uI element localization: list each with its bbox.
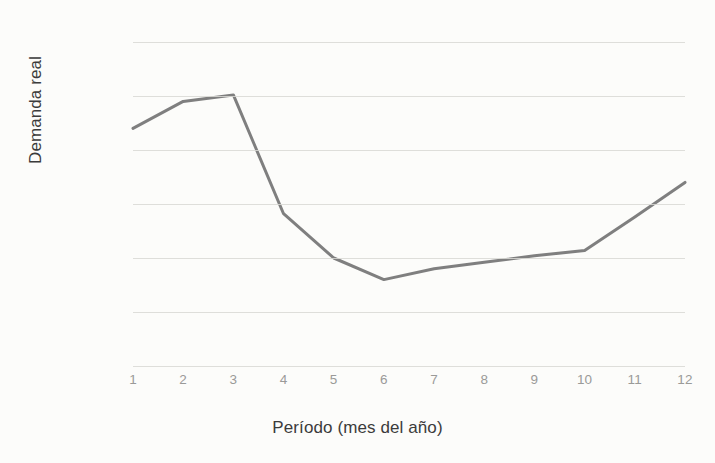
gridline (133, 150, 685, 151)
x-tick-label: 1 (113, 372, 153, 387)
x-tick-label: 6 (364, 372, 404, 387)
y-axis-title: Demanda real (26, 10, 46, 210)
x-tick-label: 12 (665, 372, 705, 387)
x-tick-label: 3 (213, 372, 253, 387)
gridline (133, 96, 685, 97)
gridline (133, 204, 685, 205)
plot-area: 050100150200250300123456789101112 (133, 42, 685, 366)
line-chart-figure: Demanda real 050100150200250300123456789… (0, 0, 715, 463)
gridline (133, 42, 685, 43)
x-axis-title: Período (mes del año) (0, 418, 715, 438)
gridline (133, 312, 685, 313)
series-line-demanda-real (133, 95, 685, 280)
x-tick-label: 5 (314, 372, 354, 387)
x-tick-label: 4 (264, 372, 304, 387)
gridline (133, 366, 685, 367)
x-tick-label: 7 (414, 372, 454, 387)
x-tick-label: 9 (514, 372, 554, 387)
x-tick-label: 10 (565, 372, 605, 387)
x-tick-label: 8 (464, 372, 504, 387)
x-tick-label: 11 (615, 372, 655, 387)
gridline (133, 258, 685, 259)
x-tick-label: 2 (163, 372, 203, 387)
